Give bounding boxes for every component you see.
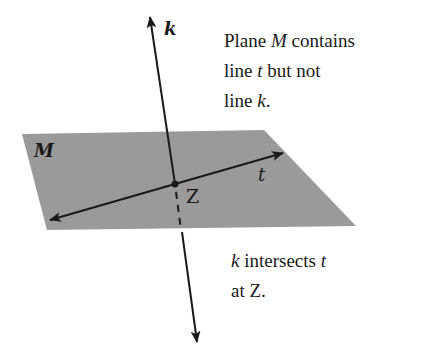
caption-top-line-1: Plane M contains <box>224 30 355 51</box>
label-z: Z <box>186 185 199 207</box>
caption-bottom-line-2: at Z. <box>231 280 266 301</box>
caption-bottom-line-1: k intersects t <box>231 250 327 271</box>
caption-top-line-2: line t but not <box>224 60 321 81</box>
line-k-lower <box>182 232 197 342</box>
label-m: M <box>33 140 55 161</box>
caption-top-line-3: line k. <box>224 90 270 111</box>
point-z <box>172 181 179 188</box>
label-t: t <box>258 164 266 185</box>
label-k: k <box>164 18 176 39</box>
geometry-diagram: k M t Z Plane M contains line t but not … <box>0 0 440 363</box>
